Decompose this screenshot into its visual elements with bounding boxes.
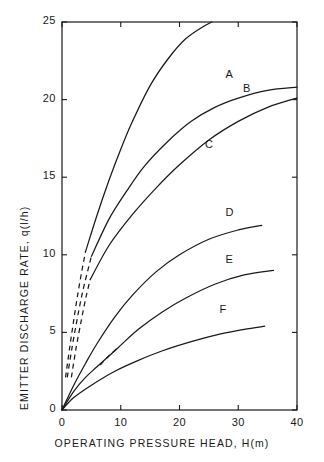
x-tick-label-30: 30 (218, 416, 258, 428)
x-tick-label-40: 40 (277, 416, 317, 428)
data-curves (62, 22, 297, 410)
curve-label-c: C (205, 138, 213, 150)
curve-label-b: B (243, 82, 250, 94)
x-tick-label-0: 0 (42, 416, 82, 428)
curve-f-solid (62, 326, 265, 410)
curve-label-a: A (225, 68, 232, 80)
curve-label-d: D (225, 206, 233, 218)
curve-c-solid (90, 98, 297, 280)
chart-figure: EMITTER DISCHARGE RATE, q(l/h) OPERATING… (0, 0, 324, 462)
y-tick-label-0: 0 (14, 402, 56, 414)
x-tick-label-20: 20 (160, 416, 200, 428)
y-tick-label-20: 20 (14, 92, 56, 104)
curve-b-solid (91, 87, 297, 256)
curve-a-solid (86, 22, 212, 252)
curve-c-dashed (71, 280, 90, 378)
x-axis-label: OPERATING PRESSURE HEAD, H(m) (0, 437, 324, 449)
x-tick-label-10: 10 (101, 416, 141, 428)
curve-label-e: E (225, 253, 232, 265)
y-tick-label-5: 5 (14, 324, 56, 336)
y-tick-label-10: 10 (14, 247, 56, 259)
chart-plot-area (0, 0, 324, 462)
y-tick-label-15: 15 (14, 169, 56, 181)
y-axis-label-container: EMITTER DISCHARGE RATE, q(l/h) (0, 0, 26, 420)
y-tick-label-25: 25 (14, 14, 56, 26)
y-axis-label: EMITTER DISCHARGE RATE, q(l/h) (18, 206, 30, 410)
curve-e-dashed (100, 348, 118, 365)
curve-label-f: F (220, 303, 227, 315)
curve-e-solid (62, 270, 274, 410)
